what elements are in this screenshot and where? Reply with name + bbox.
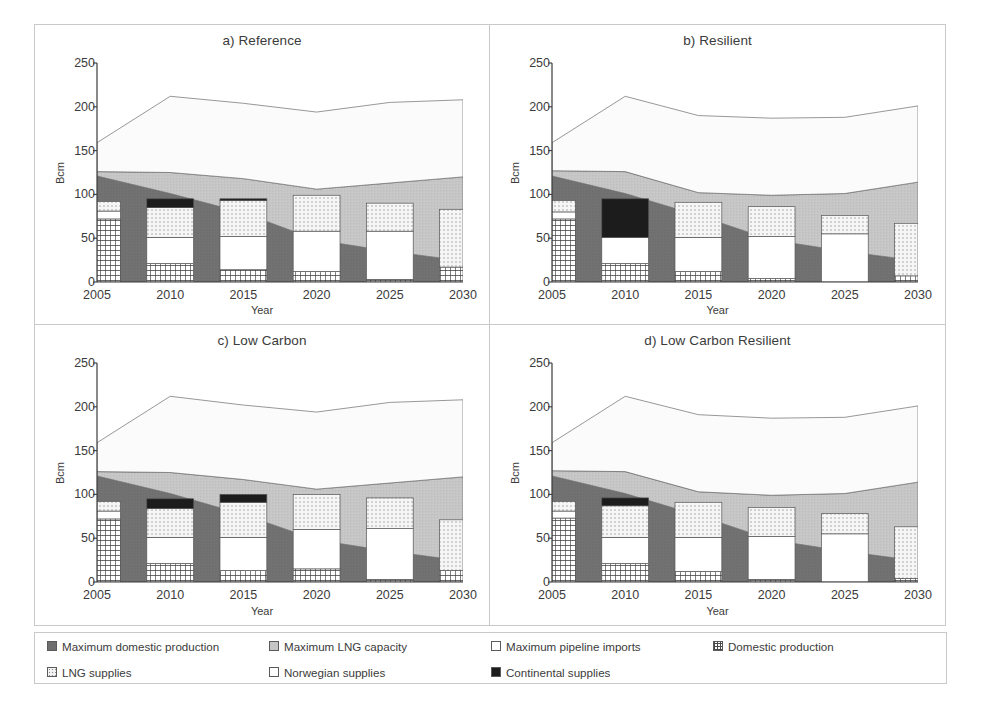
panel-a-svg [35,25,491,326]
x-tick-label: 2025 [831,588,859,602]
panel-b-plot: Bcm 050100150200250 20052010201520202025… [490,25,945,324]
x-tick-label: 2010 [156,288,184,302]
legend-swatch-max-lng-capacity-icon [269,641,279,651]
legend-label-max-pipeline-imports: Maximum pipeline imports [506,640,641,653]
panel-a-reference: a) Reference Bcm 050100150200250 2005201… [34,24,490,325]
legend-label-continental-supplies: Continental supplies [506,666,610,679]
x-tick-label: 2005 [538,588,566,602]
x-tick-label: 2020 [758,288,786,302]
x-tick-label: 2030 [449,588,477,602]
legend-label-lng-supplies: LNG supplies [62,666,132,679]
legend-item-norwegian-supplies: Norwegian supplies [269,659,385,685]
panel-grid: a) Reference Bcm 050100150200250 2005201… [34,24,947,626]
x-tick-label: 2015 [684,588,712,602]
x-tick-label: 2015 [229,588,257,602]
x-tick-label: 2015 [229,288,257,302]
x-tick-label: 2025 [376,588,404,602]
legend-swatch-lng-supplies-icon [47,667,57,677]
legend-swatch-norwegian-supplies-icon [269,667,279,677]
legend-item-max-pipeline-imports: Maximum pipeline imports [491,633,641,659]
x-tick-label: 2030 [449,288,477,302]
legend-item-max-domestic-production: Maximum domestic production [47,633,219,659]
figure-container: a) Reference Bcm 050100150200250 2005201… [34,24,947,684]
panel-c-svg [35,325,491,626]
legend-swatch-domestic-production-icon [713,641,723,651]
legend-label-max-domestic-production: Maximum domestic production [62,640,219,653]
x-tick-label: 2010 [611,588,639,602]
x-tick-label: 2010 [611,288,639,302]
x-tick-label: 2005 [83,288,111,302]
panel-d-low-carbon-resilient: d) Low Carbon Resilient Bcm 050100150200… [490,325,946,626]
legend-item-domestic-production: Domestic production [713,633,834,659]
panel-c-x-axis-label: Year [35,605,489,617]
x-tick-label: 2020 [303,288,331,302]
panel-d-x-axis-label: Year [490,605,945,617]
x-tick-label: 2005 [538,288,566,302]
panel-c-low-carbon: c) Low Carbon Bcm 050100150200250 200520… [34,325,490,626]
legend-swatch-continental-supplies-icon [491,667,501,677]
legend-label-norwegian-supplies: Norwegian supplies [284,666,385,679]
x-tick-label: 2020 [303,588,331,602]
x-tick-label: 2030 [904,588,932,602]
legend-swatch-max-domestic-production-icon [47,641,57,651]
x-tick-label: 2025 [376,288,404,302]
panel-b-x-axis-label: Year [490,304,945,316]
x-tick-label: 2030 [904,288,932,302]
panel-a-plot: Bcm 050100150200250 20052010201520202025… [35,25,489,324]
legend-row-2: LNG supplies Norwegian supplies Continen… [35,659,946,685]
panel-a-x-axis-label: Year [35,304,489,316]
legend-label-max-lng-capacity: Maximum LNG capacity [284,640,407,653]
chart-legend: Maximum domestic production Maximum LNG … [34,632,947,684]
panel-c-plot: Bcm 050100150200250 20052010201520202025… [35,325,489,625]
legend-swatch-max-pipeline-imports-icon [491,641,501,651]
x-tick-label: 2020 [758,588,786,602]
legend-item-continental-supplies: Continental supplies [491,659,610,685]
x-tick-label: 2005 [83,588,111,602]
x-tick-label: 2010 [156,588,184,602]
panel-b-svg [490,25,946,326]
legend-label-domestic-production: Domestic production [728,640,834,653]
panel-d-plot: Bcm 050100150200250 20052010201520202025… [490,325,945,625]
legend-row-1: Maximum domestic production Maximum LNG … [35,633,946,659]
legend-item-max-lng-capacity: Maximum LNG capacity [269,633,407,659]
x-tick-label: 2015 [684,288,712,302]
x-tick-label: 2025 [831,288,859,302]
panel-b-resilient: b) Resilient Bcm 050100150200250 2005201… [490,24,946,325]
panel-d-svg [490,325,946,626]
legend-item-lng-supplies: LNG supplies [47,659,132,685]
